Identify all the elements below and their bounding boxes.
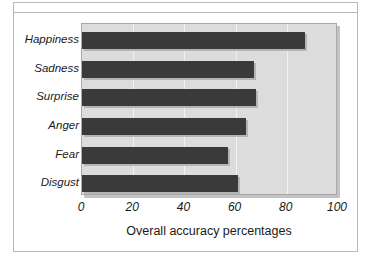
y-tick-label-disgust: Disgust — [1, 176, 79, 188]
x-tick-label-100: 100 — [317, 200, 357, 214]
bar-happiness — [82, 32, 305, 49]
x-tick-label-80: 80 — [266, 200, 306, 214]
x-tick-label-40: 40 — [163, 200, 203, 214]
y-tick-label-sadness: Sadness — [1, 62, 79, 74]
y-tick-label-fear: Fear — [1, 148, 79, 160]
x-tick-label-20: 20 — [112, 200, 152, 214]
bar-sadness — [82, 61, 254, 78]
x-axis-title: Overall accuracy percentages — [81, 224, 337, 238]
x-tick-label-60: 60 — [215, 200, 255, 214]
bar-surprise — [82, 89, 256, 106]
bar-anger — [82, 118, 246, 135]
plot-area — [81, 23, 337, 195]
y-tick-label-surprise: Surprise — [1, 90, 79, 102]
y-tick-label-happiness: Happiness — [1, 33, 79, 45]
y-tick-label-anger: Anger — [1, 119, 79, 131]
figure-header-strip — [14, 3, 357, 13]
figure-container: HappinessSadnessSurpriseAngerFearDisgust… — [0, 0, 371, 261]
bar-disgust — [82, 175, 238, 192]
x-tick-label-0: 0 — [61, 200, 101, 214]
bar-fear — [82, 147, 228, 164]
